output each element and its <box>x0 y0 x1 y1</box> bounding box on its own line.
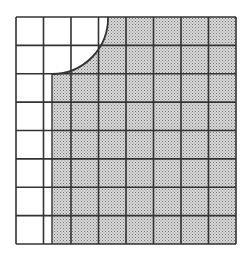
shaded-grid-diagram <box>0 0 251 264</box>
